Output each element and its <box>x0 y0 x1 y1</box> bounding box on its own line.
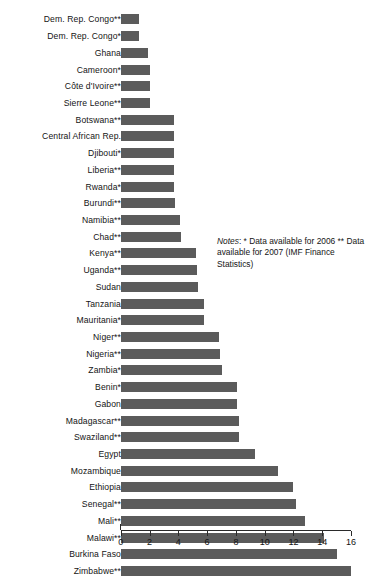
bar-category-label: Zimbabwe** <box>74 566 121 576</box>
bar <box>121 131 174 141</box>
bar-track <box>121 549 337 559</box>
bar <box>121 399 238 409</box>
bar <box>121 282 199 292</box>
bar-category-label: Sudan <box>96 282 121 292</box>
bar-track <box>121 516 305 526</box>
bar <box>121 31 140 41</box>
bar-track <box>121 232 181 242</box>
bar-category-label: Rwanda* <box>85 182 121 192</box>
bar <box>121 332 219 342</box>
bar-category-label: Tanzania <box>86 299 121 309</box>
bar <box>121 382 238 392</box>
bar <box>121 265 197 275</box>
bar-track <box>121 14 140 24</box>
bar <box>121 549 337 559</box>
bar-track <box>121 148 174 158</box>
bar-category-label: Zambia* <box>88 365 121 375</box>
bar-track <box>121 482 294 492</box>
bar-track <box>121 115 174 125</box>
bar-track <box>121 349 220 359</box>
bar-category-label: Malawi** <box>87 533 121 543</box>
bar-track <box>121 449 255 459</box>
x-axis-tick-label: 4 <box>176 537 181 548</box>
bar-track <box>121 31 140 41</box>
bar <box>121 416 239 426</box>
bar-row: Central African Rep. <box>0 128 375 145</box>
bar-row: Swaziland** <box>0 429 375 446</box>
x-axis-tick <box>351 531 352 536</box>
bar-category-label: Mozambique <box>71 466 121 476</box>
bar-track <box>121 98 150 108</box>
bar-category-label: Sierre Leone** <box>64 98 121 108</box>
bar-row: Zimbabwe** <box>0 563 375 579</box>
bar-track <box>121 165 174 175</box>
bar-row: Mauritania* <box>0 312 375 329</box>
bar-category-label: Benin* <box>95 382 121 392</box>
x-axis-tick <box>207 531 208 536</box>
bar-track <box>121 215 180 225</box>
bar-category-label: Kenya** <box>89 248 121 258</box>
bar-row: Benin* <box>0 379 375 396</box>
bar-track <box>121 315 204 325</box>
bar-row: Dem. Rep. Congo* <box>0 28 375 45</box>
bar-row: Mali** <box>0 513 375 530</box>
bar-track <box>121 131 174 141</box>
x-axis-tick-label: 10 <box>260 537 270 548</box>
bar-row: Cameroon* <box>0 61 375 78</box>
bar <box>121 315 204 325</box>
bar-row: Côte d'Ivoire** <box>0 78 375 95</box>
x-axis-tick-label: 2 <box>147 537 152 548</box>
bar-category-label: Swaziland** <box>74 432 121 442</box>
bar-row: Senegal** <box>0 496 375 513</box>
bar <box>121 198 176 208</box>
bar <box>121 365 222 375</box>
x-axis-tick-label: 6 <box>205 537 210 548</box>
bar-track <box>121 65 150 75</box>
bar-track <box>121 182 174 192</box>
bar <box>121 165 174 175</box>
bar-category-label: Madagascar** <box>66 416 121 426</box>
bar-track <box>121 198 176 208</box>
x-axis-tick <box>150 531 151 536</box>
bar <box>121 65 150 75</box>
bar-category-label: Dem. Rep. Congo* <box>47 31 121 41</box>
bar-category-label: Côte d'Ivoire** <box>65 81 121 91</box>
x-axis-tick-label: 0 <box>118 537 123 548</box>
bar-category-label: Liberia** <box>88 165 121 175</box>
bar <box>121 566 351 576</box>
bar-track <box>121 416 239 426</box>
bar-track <box>121 299 204 309</box>
x-axis-start-cap <box>120 524 121 530</box>
bar-category-label: Djibouti* <box>88 148 121 158</box>
bar-row: Dem. Rep. Congo** <box>0 11 375 28</box>
bar-row: Ghana <box>0 44 375 61</box>
bar-track <box>121 282 199 292</box>
bar <box>121 248 196 258</box>
bar-category-label: Mauritania* <box>76 315 121 325</box>
bar-category-label: Uganda** <box>83 265 121 275</box>
bar <box>121 432 239 442</box>
bar-row: Mozambique <box>0 462 375 479</box>
bar-category-label: Egypt <box>99 449 121 459</box>
bar-track <box>121 48 148 58</box>
x-axis-tick-label: 12 <box>288 537 298 548</box>
bar-row: Nigeria** <box>0 345 375 362</box>
x-axis-tick-label: 8 <box>233 537 238 548</box>
chart-notes-label: Notes <box>217 236 239 246</box>
bar-row: Namibia** <box>0 212 375 229</box>
bar <box>121 81 150 91</box>
bar-row: Sierre Leone** <box>0 95 375 112</box>
x-axis-tick <box>293 531 294 536</box>
bar <box>121 299 204 309</box>
bar-track <box>121 248 196 258</box>
bar-row: Tanzania <box>0 295 375 312</box>
bar-row: Ethiopia <box>0 479 375 496</box>
bar-rows: Dem. Rep. Congo**Dem. Rep. Congo*GhanaCa… <box>0 11 375 579</box>
bar <box>121 14 140 24</box>
x-axis-tick-label: 16 <box>346 537 356 548</box>
bar <box>121 182 174 192</box>
bar-row: Djibouti* <box>0 145 375 162</box>
bar <box>121 115 174 125</box>
